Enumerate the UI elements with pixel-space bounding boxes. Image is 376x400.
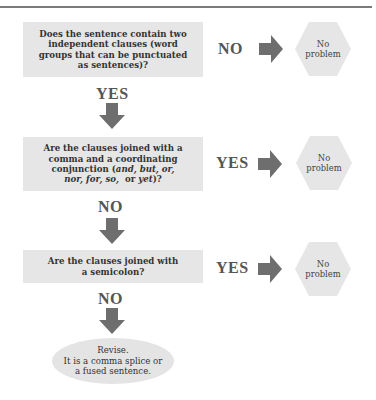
- question-2-line-1: Are the clauses joined with a: [43, 143, 182, 153]
- question-box-3: Are the clauses joined with a semicolon?: [23, 250, 203, 283]
- top-rule: [0, 6, 372, 8]
- result-1-line-2: problem: [305, 49, 340, 59]
- question-1-line-4: as sentences)?: [39, 60, 188, 70]
- question-2-line-3-text: conjunction (: [52, 164, 116, 174]
- result-2-line-1: No: [306, 153, 341, 163]
- question-2-line-4-text: or: [119, 174, 138, 184]
- question-2-line-4-italic-2: yet: [138, 174, 152, 184]
- question-2-line-4-suffix: )?: [153, 174, 162, 184]
- question-box-1: Does the sentence contain two independen…: [23, 22, 203, 77]
- down-arrow-icon: [99, 308, 125, 334]
- branch-label-no-3: NO: [98, 290, 123, 308]
- final-result-oval: Revise. It is a comma splice or a fused …: [52, 338, 174, 384]
- result-2-line-2: problem: [306, 163, 341, 173]
- question-2-line-2: comma and a coordinating: [43, 154, 182, 164]
- right-arrow-icon: [258, 255, 282, 283]
- result-3-line-1: No: [305, 259, 340, 269]
- down-arrow-icon: [99, 103, 125, 129]
- branch-label-yes-3: YES: [216, 259, 249, 277]
- question-2-line-4-italic: nor, for, so,: [64, 174, 119, 184]
- final-line-2: It is a comma splice or: [64, 356, 163, 366]
- branch-label-yes-1: YES: [96, 85, 129, 103]
- down-arrow-icon: [99, 218, 125, 244]
- question-1-line-2: independent clauses (word: [39, 39, 188, 49]
- question-3-line-2: a semicolon?: [48, 267, 178, 277]
- question-3-line-1: Are the clauses joined with: [48, 256, 178, 266]
- branch-label-yes-2: YES: [216, 154, 249, 172]
- final-line-3: a fused sentence.: [64, 366, 163, 376]
- result-hexagon-1: No problem: [295, 22, 351, 76]
- right-arrow-icon: [259, 35, 283, 63]
- question-1-line-1: Does the sentence contain two: [39, 29, 188, 39]
- result-hexagon-3: No problem: [295, 242, 351, 296]
- result-1-line-1: No: [305, 39, 340, 49]
- question-box-2: Are the clauses joined with a comma and …: [23, 137, 203, 191]
- branch-label-no-2: NO: [98, 198, 123, 216]
- branch-label-no-1: NO: [218, 40, 243, 58]
- final-line-1: Revise.: [64, 345, 163, 355]
- question-2-line-3: conjunction (and, but, or,: [43, 164, 182, 174]
- question-1-line-3: groups that can be punctuated: [39, 50, 188, 60]
- right-arrow-icon: [258, 150, 282, 178]
- result-hexagon-2: No problem: [296, 136, 352, 190]
- question-2-line-3-italic: and, but, or,: [116, 164, 175, 174]
- question-2-line-4: nor, for, so, or yet)?: [43, 174, 182, 184]
- result-3-line-2: problem: [305, 269, 340, 279]
